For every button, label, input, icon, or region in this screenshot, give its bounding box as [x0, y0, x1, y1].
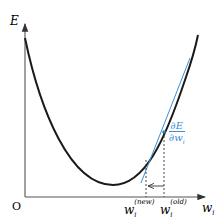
- w-new-label: w(new)i: [124, 203, 137, 219]
- x-axis-label: wi: [202, 201, 215, 217]
- gradient-descent-diagram: [0, 0, 224, 224]
- gradient-numerator: ∂E: [169, 120, 185, 132]
- y-axis-label: E: [10, 14, 19, 28]
- w-old-label: w(old)i: [160, 203, 173, 219]
- gradient-denominator: ∂wi: [169, 132, 185, 147]
- gradient-label: ∂E ∂wi: [169, 120, 185, 147]
- origin-label: O: [12, 200, 21, 213]
- error-curve: [25, 35, 198, 185]
